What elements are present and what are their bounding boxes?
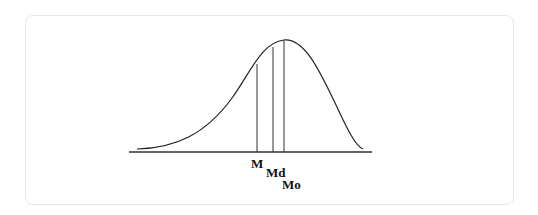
distribution-curve	[137, 40, 363, 149]
mode-label: Mo	[282, 177, 301, 192]
skewed-distribution-diagram: M Md Mo	[0, 0, 538, 215]
mean-label: M	[251, 156, 263, 171]
